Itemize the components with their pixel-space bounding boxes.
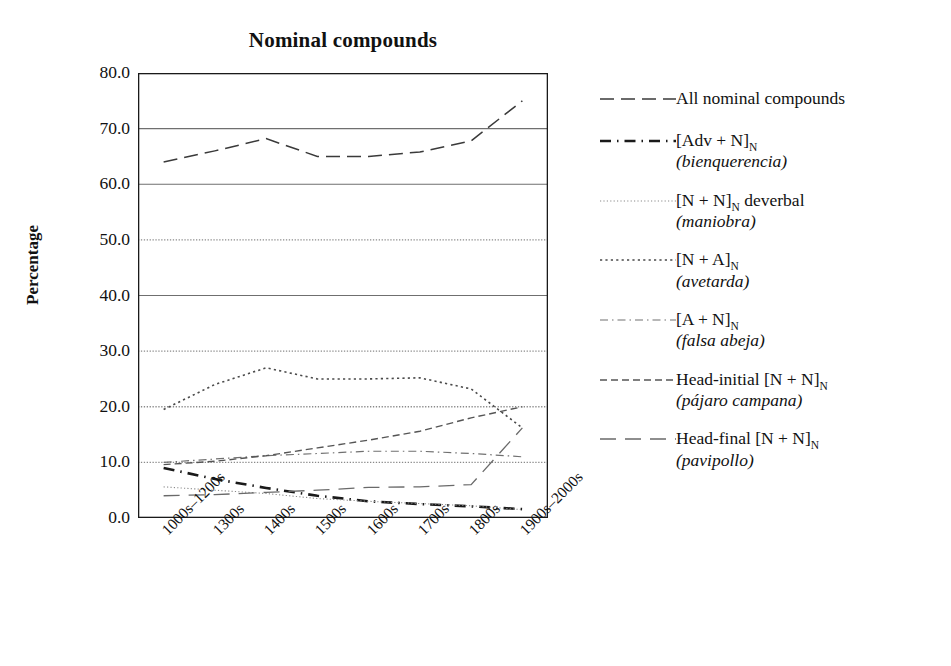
legend-label-4: [A + N]N(falsa abeja) bbox=[676, 309, 765, 352]
legend-item-3[interactable]: [N + A]N(avetarda) bbox=[600, 249, 945, 292]
legend-label-main-1: [Adv + N] bbox=[676, 130, 749, 150]
legend-line-all-nominal-compounds bbox=[600, 93, 676, 113]
y-axis-tick-labels: 80.070.060.050.040.030.020.010.00.0 bbox=[50, 73, 130, 518]
legend-item-2[interactable]: [N + N]N deverbal(maniobra) bbox=[600, 190, 945, 233]
legend-label-example-2: (maniobra) bbox=[676, 211, 805, 232]
page-title: Nominal compounds bbox=[138, 28, 548, 53]
series-line-0 bbox=[164, 101, 523, 162]
series-line-4 bbox=[164, 451, 523, 462]
legend-label-1: [Adv + N]N(bienquerencia) bbox=[676, 130, 787, 173]
legend-line-head-final bbox=[600, 433, 676, 453]
y-tick-label-80: 80.0 bbox=[58, 64, 130, 82]
series-line-5 bbox=[164, 407, 523, 465]
y-tick-label-0: 0.0 bbox=[58, 509, 130, 527]
series-lines bbox=[164, 101, 523, 510]
y-tick-label-60: 60.0 bbox=[58, 175, 130, 193]
legend-label-6: Head-final [N + N]N(pavipollo) bbox=[676, 428, 819, 471]
y-tick-label-40: 40.0 bbox=[58, 287, 130, 305]
legend-line-adv-n bbox=[600, 135, 676, 155]
legend-item-0[interactable]: All nominal compounds bbox=[600, 88, 945, 113]
legend-line-n-n-deverbal bbox=[600, 195, 676, 215]
x-axis-tick-labels: 1000s–1200s1300s1400s1500s1600s1700s1800… bbox=[138, 518, 568, 666]
legend-label-example-1: (bienquerencia) bbox=[676, 151, 787, 172]
legend-item-6[interactable]: Head-final [N + N]N(pavipollo) bbox=[600, 428, 945, 471]
legend-label-main-0: All nominal compounds bbox=[676, 88, 845, 108]
legend-label-main-4: [A + N] bbox=[676, 309, 731, 329]
legend-label-main-6: Head-final [N + N] bbox=[676, 428, 811, 448]
legend-line-n-a bbox=[600, 254, 676, 274]
y-tick-label-20: 20.0 bbox=[58, 398, 130, 416]
legend-label-example-6: (pavipollo) bbox=[676, 450, 819, 471]
legend-label-main-3: [N + A] bbox=[676, 249, 731, 269]
legend-label-3: [N + A]N(avetarda) bbox=[676, 249, 749, 292]
y-tick-label-50: 50.0 bbox=[58, 231, 130, 249]
plot-area bbox=[138, 73, 548, 518]
y-tick-label-30: 30.0 bbox=[58, 342, 130, 360]
legend-item-1[interactable]: [Adv + N]N(bienquerencia) bbox=[600, 130, 945, 173]
legend-item-4[interactable]: [A + N]N(falsa abeja) bbox=[600, 309, 945, 352]
legend-item-5[interactable]: Head-initial [N + N]N(pájaro campana) bbox=[600, 369, 945, 412]
legend-label-subscript-6: N bbox=[811, 439, 819, 451]
legend-label-0: All nominal compounds bbox=[676, 88, 845, 109]
legend-label-subscript-5: N bbox=[820, 379, 828, 391]
legend-label-example-5: (pájaro campana) bbox=[676, 390, 828, 411]
legend-label-main-5: Head-initial [N + N] bbox=[676, 369, 820, 389]
plot-svg bbox=[138, 73, 548, 518]
legend-label-2: [N + N]N deverbal(maniobra) bbox=[676, 190, 805, 233]
legend-label-5: Head-initial [N + N]N(pájaro campana) bbox=[676, 369, 828, 412]
legend-label-example-3: (avetarda) bbox=[676, 271, 749, 292]
legend-label-suffix-2: deverbal bbox=[740, 190, 805, 210]
legend-label-example-4: (falsa abeja) bbox=[676, 330, 765, 351]
chart-legend: All nominal compounds[Adv + N]N(bienquer… bbox=[600, 88, 945, 488]
chart-figure: Nominal compounds Percentage 80.070.060.… bbox=[0, 0, 951, 666]
y-tick-label-70: 70.0 bbox=[58, 120, 130, 138]
y-axis-title: Percentage bbox=[23, 175, 43, 355]
legend-line-head-initial bbox=[600, 374, 676, 394]
legend-label-main-2: [N + N] bbox=[676, 190, 732, 210]
legend-line-a-n bbox=[600, 314, 676, 334]
gridlines bbox=[138, 129, 548, 463]
y-tick-label-10: 10.0 bbox=[58, 453, 130, 471]
